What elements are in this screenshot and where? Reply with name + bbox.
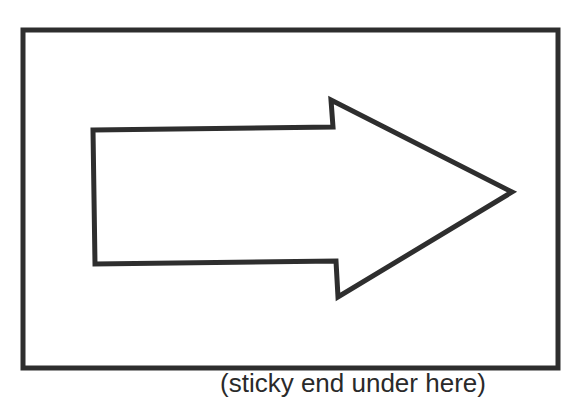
right-arrow-icon [93,100,512,297]
caption-sticky-end: (sticky end under here) [220,368,570,399]
diagram-canvas [0,0,581,407]
